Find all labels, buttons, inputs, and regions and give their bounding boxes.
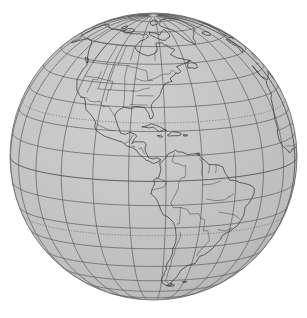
globe-svg: [0, 0, 307, 318]
globe-figure: [0, 0, 307, 318]
